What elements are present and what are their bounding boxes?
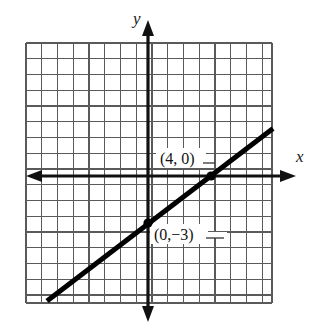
y-axis-up-arrow	[142, 20, 154, 36]
y-axis-down-arrow	[142, 306, 154, 322]
point-marker-4-0	[206, 171, 215, 180]
x-axis	[26, 170, 296, 182]
coordinate-plane-svg	[0, 0, 323, 336]
point-label-4-0: (4, 0)	[158, 150, 197, 168]
x-axis-right-arrow	[280, 170, 296, 182]
label-backdrop-3	[205, 232, 227, 238]
point-label-0-neg3: (0,−3)	[152, 226, 196, 244]
x-axis-left-arrow	[26, 170, 42, 182]
graph-figure: y x (4, 0) (0,−3)	[0, 0, 323, 336]
x-axis-label: x	[296, 148, 304, 165]
y-axis-label: y	[133, 10, 141, 27]
